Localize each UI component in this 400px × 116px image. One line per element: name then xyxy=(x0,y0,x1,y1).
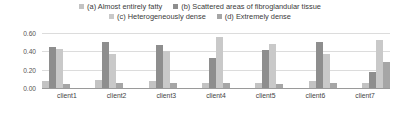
plot-area xyxy=(42,33,390,89)
bar[interactable] xyxy=(209,58,216,88)
bar[interactable] xyxy=(316,42,323,88)
legend-swatch-icon xyxy=(173,4,178,9)
legend-label: (c) Heterogeneously dense xyxy=(117,12,206,21)
bar[interactable] xyxy=(216,37,223,88)
x-axis-category-label: client5 xyxy=(241,91,291,103)
legend-item[interactable]: (d) Extremely dense xyxy=(217,12,291,21)
bar-group xyxy=(149,33,177,88)
bar[interactable] xyxy=(156,45,163,88)
legend-swatch-icon xyxy=(79,4,84,9)
x-axis-category-label: client7 xyxy=(340,91,390,103)
bar[interactable] xyxy=(323,54,330,88)
legend-label: (a) Almost entirely fatty xyxy=(87,2,162,11)
y-axis-tick-label: 0.60 xyxy=(23,30,36,37)
bar[interactable] xyxy=(369,72,376,89)
bar[interactable] xyxy=(49,47,56,88)
bar[interactable] xyxy=(262,50,269,89)
bar[interactable] xyxy=(95,80,102,88)
legend-row: (a) Almost entirely fatty(b) Scattered a… xyxy=(79,2,321,11)
bar[interactable] xyxy=(163,51,170,88)
bar-group xyxy=(42,33,70,88)
bar-group xyxy=(95,33,123,88)
y-axis-tick-label: 0.20 xyxy=(23,66,36,73)
legend-item[interactable]: (a) Almost entirely fatty xyxy=(79,2,162,11)
y-axis-tick-labels: 0.000.200.400.60 xyxy=(0,33,40,89)
x-axis-category-labels: client1client2client3client4client5clien… xyxy=(42,91,390,103)
bar[interactable] xyxy=(269,44,276,88)
y-axis-tick-label: 0.40 xyxy=(23,48,36,55)
bar-group xyxy=(362,33,390,88)
legend-item[interactable]: (c) Heterogeneously dense xyxy=(109,12,206,21)
bar-group xyxy=(202,33,230,88)
bar-chart: (a) Almost entirely fatty(b) Scattered a… xyxy=(0,0,400,116)
legend-label: (b) Scattered areas of fibroglandular ti… xyxy=(181,2,321,11)
bar[interactable] xyxy=(56,49,63,88)
bar-group xyxy=(255,33,283,88)
x-axis-line xyxy=(42,88,390,89)
bar[interactable] xyxy=(309,81,316,88)
x-axis-category-label: client1 xyxy=(42,91,92,103)
bar[interactable] xyxy=(149,81,156,88)
bar[interactable] xyxy=(383,62,390,88)
bar-group xyxy=(309,33,337,88)
legend-row: (c) Heterogeneously dense(d) Extremely d… xyxy=(109,12,291,21)
x-axis-category-label: client4 xyxy=(191,91,241,103)
x-axis-category-label: client3 xyxy=(141,91,191,103)
y-axis-tick-label: 0.00 xyxy=(23,85,36,92)
x-axis-category-label: client2 xyxy=(92,91,142,103)
x-axis-category-label: client6 xyxy=(291,91,341,103)
legend-item[interactable]: (b) Scattered areas of fibroglandular ti… xyxy=(173,2,321,11)
bar-groups xyxy=(42,33,390,88)
bar[interactable] xyxy=(109,54,116,88)
chart-legend: (a) Almost entirely fatty(b) Scattered a… xyxy=(0,2,400,21)
bar[interactable] xyxy=(376,40,383,88)
legend-label: (d) Extremely dense xyxy=(225,12,291,21)
legend-swatch-icon xyxy=(217,14,222,19)
bar[interactable] xyxy=(42,81,49,88)
legend-swatch-icon xyxy=(109,14,114,19)
bar[interactable] xyxy=(102,42,109,88)
